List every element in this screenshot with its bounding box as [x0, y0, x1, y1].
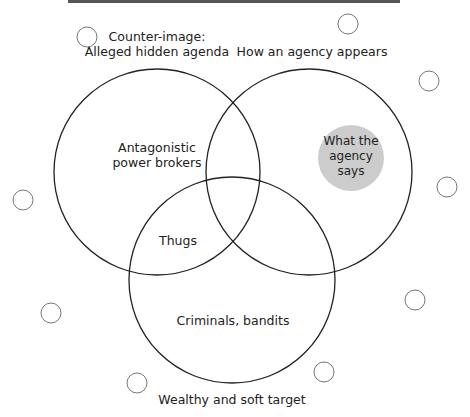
small-circle-icon — [41, 303, 61, 323]
venn-diagram — [0, 0, 470, 417]
circle-agency-appearance — [206, 69, 412, 275]
small-circle-icon — [338, 14, 358, 34]
circle-target — [129, 177, 335, 383]
agency-says-label: What the agency says — [323, 134, 378, 179]
label-line: Counter-image: — [85, 29, 229, 44]
label-line: power brokers — [112, 155, 201, 170]
counter-image-label: Counter-image: Alleged hidden agenda — [85, 29, 229, 59]
small-circle-icon — [127, 373, 147, 393]
small-circle-icon — [437, 177, 457, 197]
target-label: Wealthy and soft target — [158, 392, 305, 407]
label-line: Alleged hidden agenda — [85, 44, 229, 59]
label-line: says — [323, 164, 378, 179]
small-circle-icon — [419, 71, 439, 91]
thugs-region-label: Thugs — [159, 233, 197, 248]
label-line: What the — [323, 134, 378, 149]
antagonistic-region-label: Antagonistic power brokers — [112, 140, 201, 170]
small-circle-icon — [13, 190, 33, 210]
label-line: agency — [323, 149, 378, 164]
small-circle-icon — [314, 362, 334, 382]
criminals-region-label: Criminals, bandits — [177, 313, 290, 328]
small-circle-icon — [405, 290, 425, 310]
circle-counter-image — [54, 69, 260, 275]
label-line: Antagonistic — [112, 140, 201, 155]
agency-appearance-label: How an agency appears — [237, 44, 388, 59]
